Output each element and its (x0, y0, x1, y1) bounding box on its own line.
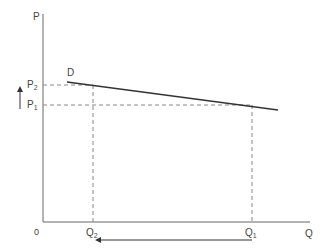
demand-curve (67, 82, 278, 110)
demand-diagram: P Q 0 D P2 P1 Q2 Q1 (0, 0, 323, 252)
diagram-graphics (0, 0, 323, 252)
y-axis-label: P (33, 12, 40, 22)
q2-label: Q2 (86, 228, 98, 239)
origin-label: 0 (34, 228, 39, 237)
p1-label: P1 (27, 100, 38, 111)
demand-label: D (67, 68, 74, 78)
p2-label: P2 (27, 80, 38, 91)
q1-label: Q1 (245, 228, 257, 239)
x-axis-label: Q (305, 229, 313, 239)
